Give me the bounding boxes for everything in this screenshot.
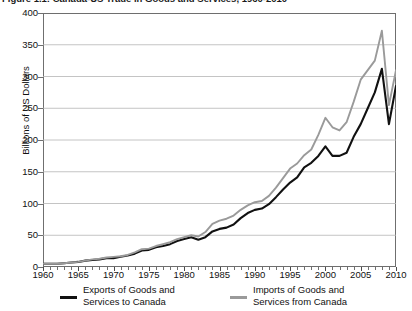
y-axis-tick-mark — [38, 45, 43, 46]
x-axis-minor-tick — [227, 267, 228, 270]
x-axis-minor-tick — [262, 267, 263, 270]
x-axis-minor-tick — [198, 267, 199, 270]
x-axis-minor-tick — [205, 267, 206, 270]
x-axis-minor-tick — [354, 267, 355, 270]
x-axis-tick-mark — [220, 267, 221, 271]
x-axis-minor-tick — [64, 267, 65, 270]
y-axis-tick-label: 100 — [12, 199, 38, 209]
x-axis-tick-mark — [149, 267, 150, 271]
x-axis-minor-tick — [135, 267, 136, 270]
y-axis-title: Billions of US Dollars — [20, 26, 31, 196]
x-axis-minor-tick — [389, 267, 390, 270]
x-axis-minor-tick — [347, 267, 348, 270]
x-axis-tick-label: 2010 — [379, 270, 412, 280]
legend-label-line1: Exports of Goods and — [83, 284, 175, 296]
x-axis-tick-label: 1985 — [203, 270, 237, 280]
y-axis-tick-mark — [38, 235, 43, 236]
x-axis-tick-mark — [290, 267, 291, 271]
figure-caption: Figure 1.1: Canada-US Trade in Goods and… — [2, 0, 302, 5]
x-axis-minor-tick — [382, 267, 383, 270]
x-axis-minor-tick — [121, 267, 122, 270]
x-axis-minor-tick — [107, 267, 108, 270]
x-axis-minor-tick — [170, 267, 171, 270]
x-axis-minor-tick — [99, 267, 100, 270]
x-axis-minor-tick — [57, 267, 58, 270]
x-axis-tick-mark — [184, 267, 185, 271]
x-axis-tick-label: 1960 — [26, 270, 60, 280]
x-axis-tick-mark — [78, 267, 79, 271]
x-axis-tick-label: 2000 — [308, 270, 342, 280]
x-axis-tick-mark — [361, 267, 362, 271]
y-axis-tick-mark — [38, 13, 43, 14]
y-axis-tick-mark — [38, 172, 43, 173]
series-line — [43, 69, 396, 264]
x-axis-minor-tick — [368, 267, 369, 270]
x-axis-minor-tick — [92, 267, 93, 270]
series-lines — [43, 31, 396, 264]
y-axis-tick-mark — [38, 77, 43, 78]
x-axis-minor-tick — [177, 267, 178, 270]
x-axis-tick-label: 1975 — [132, 270, 166, 280]
y-axis-tick-mark — [38, 140, 43, 141]
legend-swatch — [230, 296, 247, 299]
x-axis-minor-tick — [311, 267, 312, 270]
y-axis-tick-label: 50 — [12, 230, 38, 240]
x-axis-tick-label: 2005 — [344, 270, 378, 280]
x-axis-minor-tick — [332, 267, 333, 270]
legend-label-line2: Services to Canada — [83, 296, 166, 308]
x-axis-minor-tick — [297, 267, 298, 270]
x-axis-tick-mark — [114, 267, 115, 271]
x-axis-tick-label: 1990 — [238, 270, 272, 280]
x-axis-tick-label: 1980 — [167, 270, 201, 280]
x-axis-minor-tick — [304, 267, 305, 270]
legend-label-line1: Imports of Goods and — [253, 284, 344, 296]
x-axis-minor-tick — [163, 267, 164, 270]
x-axis-minor-tick — [156, 267, 157, 270]
x-axis-minor-tick — [71, 267, 72, 270]
x-axis-tick-mark — [255, 267, 256, 271]
plot-canvas — [43, 13, 396, 267]
x-axis-minor-tick — [269, 267, 270, 270]
y-axis-tick-mark — [38, 108, 43, 109]
x-axis-minor-tick — [241, 267, 242, 270]
x-axis-tick-label: 1970 — [97, 270, 131, 280]
x-axis-tick-mark — [396, 267, 397, 271]
x-axis-minor-tick — [318, 267, 319, 270]
x-axis-minor-tick — [128, 267, 129, 270]
x-axis-minor-tick — [276, 267, 277, 270]
x-axis-minor-tick — [212, 267, 213, 270]
x-axis-tick-mark — [43, 267, 44, 271]
y-axis-tick-label: 400 — [12, 8, 38, 18]
x-axis-minor-tick — [283, 267, 284, 270]
figure-container: Figure 1.1: Canada-US Trade in Goods and… — [0, 0, 412, 311]
x-axis-minor-tick — [340, 267, 341, 270]
x-axis-tick-mark — [325, 267, 326, 271]
x-axis-minor-tick — [248, 267, 249, 270]
x-axis-minor-tick — [375, 267, 376, 270]
x-axis-minor-tick — [234, 267, 235, 270]
x-axis-minor-tick — [142, 267, 143, 270]
y-axis-tick-mark — [38, 204, 43, 205]
x-axis-tick-label: 1965 — [61, 270, 95, 280]
x-axis-minor-tick — [191, 267, 192, 270]
chart-legend: Exports of Goods andServices to CanadaIm… — [0, 285, 412, 311]
legend-swatch — [60, 296, 77, 299]
legend-label-line2: Services from Canada — [253, 296, 347, 308]
x-axis-tick-label: 1995 — [273, 270, 307, 280]
x-axis-minor-tick — [85, 267, 86, 270]
x-axis-minor-tick — [50, 267, 51, 270]
